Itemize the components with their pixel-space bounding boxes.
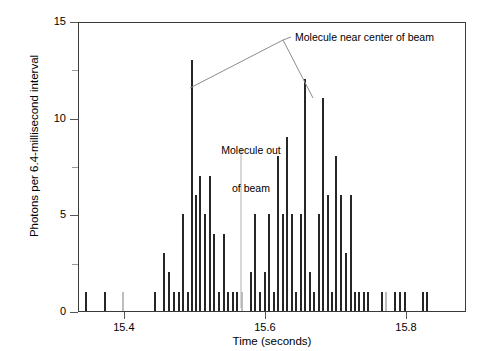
bar bbox=[273, 292, 275, 311]
bar bbox=[163, 253, 165, 311]
bar bbox=[191, 60, 193, 311]
bar bbox=[227, 292, 229, 311]
annotation-molecule-near-center: Molecule near center of beam bbox=[295, 31, 434, 44]
bar bbox=[381, 292, 383, 311]
bar bbox=[367, 292, 369, 311]
y-tick bbox=[70, 312, 78, 313]
bar bbox=[168, 272, 170, 311]
bar bbox=[295, 292, 297, 311]
y-axis-title: Photons per 6.4-millisecond interval bbox=[28, 31, 40, 261]
x-axis-title: Time (seconds) bbox=[78, 335, 466, 347]
bar bbox=[213, 234, 215, 311]
x-tick bbox=[265, 312, 266, 319]
bar bbox=[85, 292, 87, 311]
bar bbox=[199, 176, 201, 311]
bar bbox=[154, 292, 156, 311]
bar bbox=[291, 214, 293, 311]
annotation-molecule-out-of-beam: Molecule out of beam bbox=[203, 119, 299, 219]
bar bbox=[404, 292, 406, 311]
bar bbox=[350, 195, 352, 311]
x-tick-label: 15.8 bbox=[376, 321, 436, 333]
bar bbox=[204, 214, 206, 311]
bar bbox=[327, 195, 329, 311]
bar bbox=[300, 214, 302, 311]
bar bbox=[236, 292, 238, 311]
bar bbox=[182, 214, 184, 311]
bar bbox=[345, 253, 347, 311]
y-tick bbox=[70, 215, 78, 216]
bar bbox=[259, 292, 261, 311]
bar bbox=[340, 195, 342, 311]
bar bbox=[173, 292, 175, 311]
bar bbox=[232, 292, 234, 311]
y-tick bbox=[70, 22, 78, 23]
bar bbox=[304, 79, 306, 311]
x-tick-label: 15.4 bbox=[94, 321, 154, 333]
bar bbox=[313, 292, 315, 311]
y-tick-label: 10 bbox=[36, 113, 66, 124]
bar bbox=[178, 292, 180, 311]
bar bbox=[322, 98, 324, 311]
y-tick-label: 15 bbox=[36, 16, 66, 27]
x-tick-label: 15.6 bbox=[235, 321, 295, 333]
bar bbox=[104, 292, 106, 311]
bar bbox=[354, 292, 356, 311]
bar bbox=[268, 214, 270, 311]
bar bbox=[122, 292, 124, 311]
bar bbox=[335, 156, 337, 311]
bar bbox=[187, 292, 189, 311]
bar bbox=[426, 292, 428, 311]
bar bbox=[385, 292, 387, 311]
bar bbox=[318, 214, 320, 311]
bar bbox=[241, 292, 243, 311]
y-tick-label: 5 bbox=[36, 209, 66, 220]
x-tick bbox=[406, 312, 407, 319]
bar bbox=[195, 195, 197, 311]
y-tick-label: 0 bbox=[36, 306, 66, 317]
annotation-out-line-2: of beam bbox=[203, 182, 299, 195]
bar bbox=[394, 292, 396, 311]
bar bbox=[218, 292, 220, 311]
annotation-out-line-1: Molecule out bbox=[203, 144, 299, 157]
bar bbox=[358, 292, 360, 311]
bar bbox=[250, 272, 252, 311]
bar bbox=[254, 214, 256, 311]
bar bbox=[422, 292, 424, 311]
bar bbox=[309, 272, 311, 311]
bar bbox=[331, 292, 333, 311]
x-tick bbox=[124, 312, 125, 319]
bar bbox=[264, 272, 266, 311]
bar bbox=[363, 292, 365, 311]
bar bbox=[399, 292, 401, 311]
photon-burst-chart: 051015 15.415.615.8 Photons per 6.4-mill… bbox=[0, 0, 491, 351]
y-tick bbox=[70, 119, 78, 120]
bar bbox=[282, 214, 284, 311]
bar bbox=[223, 234, 225, 311]
